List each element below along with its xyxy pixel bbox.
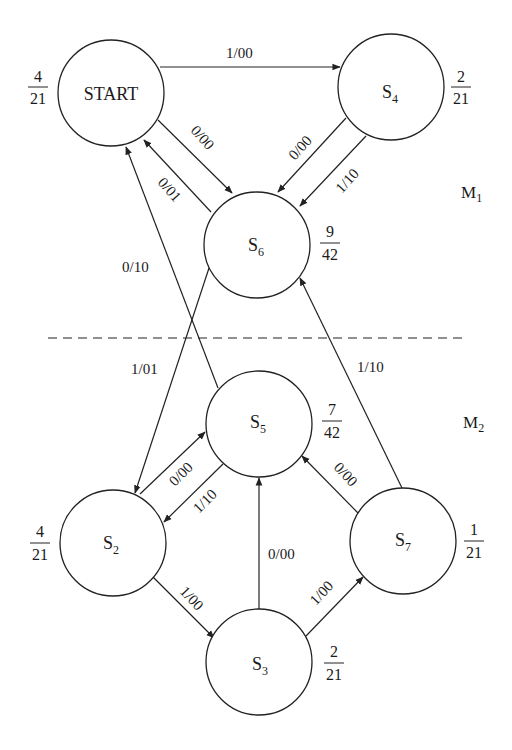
edge-label: 1/10 (357, 359, 384, 375)
svg-text:4: 4 (36, 523, 44, 540)
svg-text:7: 7 (328, 401, 336, 418)
svg-text:21: 21 (453, 90, 469, 107)
edge-label: 0/00 (188, 122, 218, 153)
svg-text:2: 2 (330, 643, 338, 660)
prob-s4: 2 21 (451, 68, 471, 107)
state-s2: S2 (60, 490, 166, 596)
edge-label: 0/10 (122, 259, 149, 275)
edge-label: 1/01 (131, 361, 158, 377)
edge-label: 0/00 (331, 459, 361, 489)
edge-s3-s7 (306, 577, 363, 636)
region-label-m1: M1 (461, 183, 482, 205)
svg-text:42: 42 (324, 424, 340, 441)
state-label: START (84, 84, 138, 104)
edge-label: 1/00 (306, 578, 336, 608)
edge-s6-start (144, 140, 211, 212)
svg-text:9: 9 (326, 223, 334, 240)
svg-text:4: 4 (34, 68, 42, 85)
prob-start: 4 21 (28, 68, 48, 107)
state-diagram: 1/00 0/00 0/01 0/00 1/10 0/10 1/01 1/10 … (0, 0, 512, 750)
state-s7: S7 (350, 488, 456, 594)
edge-label: 0/00 (166, 459, 196, 489)
svg-text:21: 21 (466, 544, 482, 561)
prob-s6: 9 42 (320, 223, 340, 263)
edge-s6-s2 (135, 268, 209, 493)
state-s3: S3 (206, 609, 312, 715)
prob-s2: 4 21 (30, 523, 50, 563)
state-s5: S5 (206, 371, 312, 477)
state-s4: S4 (338, 34, 444, 140)
edge-label: 1/10 (332, 165, 362, 196)
edge-label: 0/00 (285, 132, 315, 163)
edge-s7-s6 (300, 278, 402, 488)
edge-label: 0/00 (268, 546, 295, 562)
prob-s7: 1 21 (464, 521, 484, 561)
prob-s5: 7 42 (322, 401, 342, 441)
edge-s2-s3 (153, 577, 214, 638)
region-label-m2: M2 (463, 413, 484, 435)
edge-label: 1/00 (177, 583, 207, 613)
edge-label: 1/00 (226, 45, 253, 61)
state-start: START (58, 40, 164, 146)
svg-text:21: 21 (30, 90, 46, 107)
svg-text:1: 1 (470, 521, 478, 538)
svg-text:2: 2 (457, 68, 465, 85)
edge-label: 1/10 (190, 486, 220, 516)
state-s6: S6 (204, 192, 310, 298)
prob-s3: 2 21 (324, 643, 344, 683)
svg-text:21: 21 (32, 546, 48, 563)
svg-text:21: 21 (326, 666, 342, 683)
svg-text:42: 42 (322, 246, 338, 263)
